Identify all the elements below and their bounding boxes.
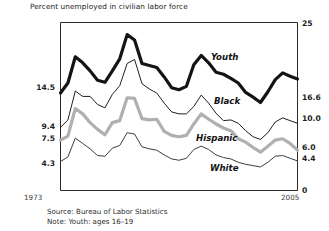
footnote-note: Note: Youth: ages 16–19	[47, 217, 133, 226]
series-label-white: White	[210, 163, 238, 173]
y-axis-tick-right-6-0: 6.0	[302, 143, 315, 152]
series-line-hispanic	[61, 98, 298, 152]
footnote-source: Source: Bureau of Labor Statistics	[47, 207, 167, 216]
series-label-black: Black	[214, 96, 240, 106]
x-axis-end-label: 2005	[281, 193, 299, 202]
y-axis-tick-left-9-4: 9.4	[10, 122, 55, 131]
y-axis-tick-left-14-5: 14.5	[10, 83, 55, 92]
y-axis-tick-right-4-4: 4.4	[302, 154, 315, 163]
y-axis-tick-right-0: 0	[302, 186, 307, 195]
chart-figure: Percent unemployed in civilian labor for…	[0, 0, 329, 231]
y-axis-tick-right-25: 25	[302, 19, 313, 28]
y-axis-tick-right-16-6: 16.6	[302, 93, 321, 102]
x-axis-start-label: 1973	[24, 193, 42, 202]
y-axis-tick-right-10-0: 10.0	[302, 114, 321, 123]
plot-frame	[61, 23, 298, 191]
series-group	[61, 35, 298, 167]
series-label-hispanic: Hispanic	[196, 133, 237, 143]
y-axis-tick-left-4-3: 4.3	[10, 159, 55, 168]
line-chart-plot	[0, 0, 329, 231]
series-line-youth	[61, 35, 298, 103]
y-axis-tick-left-7-5: 7.5	[10, 134, 55, 143]
series-label-youth: Youth	[211, 52, 238, 62]
